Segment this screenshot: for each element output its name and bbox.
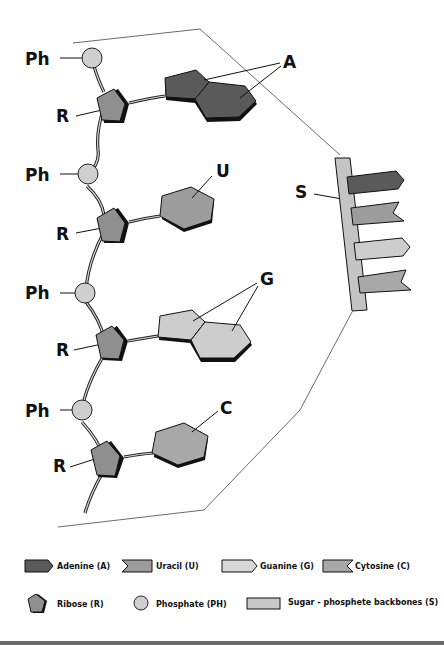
legend-label: Phosphate (PH): [156, 600, 227, 609]
ribose-label: R: [56, 106, 69, 126]
schematic-strand: S: [295, 158, 411, 311]
legend-item-phosphate: Phosphate (PH): [134, 596, 227, 610]
schematic-adenine: [347, 171, 404, 194]
backbone-swatch-icon: [247, 598, 280, 609]
legend-label: Ribose (R): [57, 600, 104, 609]
base-label: C: [220, 398, 232, 418]
legend-label: Sugar - phosphete backbones (S): [288, 598, 438, 607]
legend-label: Uracil (U): [156, 562, 199, 571]
legend-label: Cytosine (C): [355, 562, 410, 571]
guanine-swatch-icon: [222, 560, 257, 572]
adenine-swatch-icon: [25, 560, 53, 572]
legend-item-guanine: Guanine (G): [222, 560, 314, 572]
bottom-divider: [0, 641, 444, 645]
ribose-swatch-icon: [28, 594, 45, 612]
ribose-label: R: [56, 340, 69, 360]
schematic-cytosine: [358, 270, 411, 293]
ribose-label: R: [53, 456, 66, 476]
backbone-label: S: [295, 182, 307, 202]
ribose-pentagon: [91, 441, 120, 476]
uracil-swatch-icon: [122, 560, 152, 572]
phosphate-circle: [72, 400, 92, 420]
base-label: A: [283, 52, 297, 72]
rna-structure-diagram: Ph R A Ph R U Ph R: [0, 0, 444, 645]
phosphate-label: Ph: [25, 165, 50, 185]
phosphate-circle: [78, 164, 98, 184]
phosphate-label: Ph: [25, 49, 50, 69]
legend-label: Adenine (A): [57, 562, 110, 571]
legend: Adenine (A) Uracil (U) Guanine (G) Cytos…: [25, 560, 438, 613]
phosphate-label: Ph: [25, 283, 50, 303]
base-label: G: [260, 269, 274, 289]
nucleotide-cytosine: Ph R C: [25, 398, 232, 478]
nucleotide-guanine: Ph R G: [25, 269, 274, 362]
schematic-uracil: [351, 202, 404, 225]
nucleotide-uracil: Ph R U: [25, 161, 230, 244]
phosphate-circle: [75, 283, 95, 303]
nucleotide-adenine: Ph R A: [25, 48, 297, 126]
legend-item-uracil: Uracil (U): [122, 560, 199, 572]
phosphate-circle: [82, 48, 102, 68]
legend-item-ribose: Ribose (R): [28, 594, 104, 613]
legend-item-cytosine: Cytosine (C): [323, 560, 410, 572]
legend-item-adenine: Adenine (A): [25, 560, 110, 572]
base-label: U: [216, 161, 230, 181]
legend-label: Guanine (G): [260, 562, 314, 571]
legend-item-backbone: Sugar - phosphete backbones (S): [247, 598, 438, 609]
phosphate-swatch-icon: [134, 596, 148, 610]
ribose-label: R: [56, 224, 69, 244]
cytosine-swatch-icon: [323, 560, 353, 572]
schematic-guanine: [354, 238, 410, 260]
phosphate-label: Ph: [25, 401, 50, 421]
